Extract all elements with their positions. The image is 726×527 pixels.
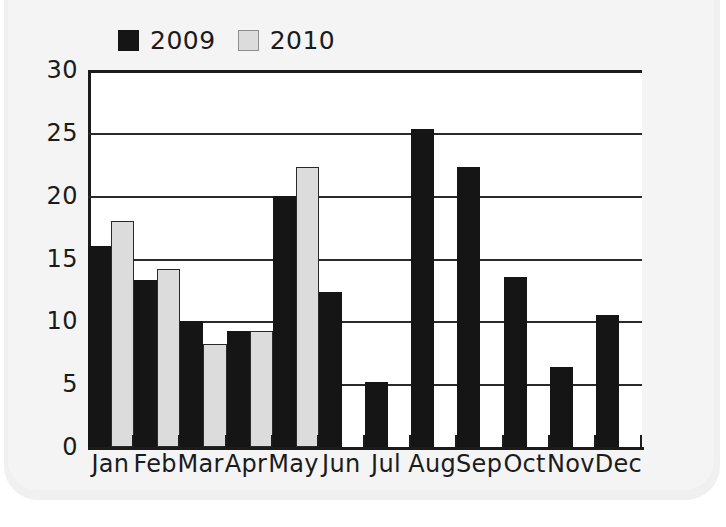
x-tick-label-dec: Dec (595, 452, 642, 476)
dark-square-swatch-icon (118, 30, 139, 51)
bar-group-jul (365, 70, 411, 447)
y-tick-label-0: 0 (26, 435, 78, 459)
bar-group-jun (319, 70, 365, 447)
bar-2009-jan (88, 246, 111, 447)
bar-2010-feb (157, 269, 180, 447)
legend-item-2010: 2010 (238, 28, 336, 53)
y-tick-label-15: 15 (26, 247, 78, 271)
bar-2009-jul (365, 382, 388, 447)
y-tick-label-20: 20 (26, 184, 78, 208)
legend-label-2009: 2009 (150, 28, 216, 53)
bar-group-feb (134, 70, 180, 447)
y-tick-label-10: 10 (26, 309, 78, 333)
y-tick-label-25: 25 (26, 121, 78, 145)
bar-2010-apr (250, 331, 273, 447)
x-axis-labels: JanFebMarAprMayJunJulAugSepOctNovDec (88, 452, 642, 476)
x-tick-label-jun: Jun (319, 452, 364, 476)
bar-2009-oct (504, 277, 527, 447)
bar-group-mar (180, 70, 226, 447)
x-tick-label-mar: Mar (177, 452, 223, 476)
bar-2010-mar (203, 344, 226, 447)
x-tick-label-aug: Aug (408, 452, 456, 476)
x-tick-label-feb: Feb (133, 452, 178, 476)
y-axis-labels: 30 25 20 15 10 5 0 (18, 70, 78, 447)
bar-group-aug (411, 70, 457, 447)
bar-chart: 2009 2010 30 25 20 15 10 5 0 (0, 0, 726, 527)
bar-group-sep (457, 70, 503, 447)
y-tick-label-30: 30 (26, 58, 78, 82)
legend-label-2010: 2010 (270, 28, 336, 53)
bar-2009-dec (596, 315, 619, 447)
bar-2010-may (296, 167, 319, 447)
x-tick-label-jul: Jul (364, 452, 409, 476)
x-tick-label-nov: Nov (547, 452, 595, 476)
bar-2009-aug (411, 129, 434, 447)
chart-legend: 2009 2010 (118, 28, 335, 53)
bar-group-dec (596, 70, 642, 447)
bar-2009-may (273, 196, 296, 447)
bar-group-jan (88, 70, 134, 447)
x-tick-label-apr: Apr (224, 452, 269, 476)
x-tick-label-jan: Jan (88, 452, 133, 476)
bar-group-oct (504, 70, 550, 447)
bar-group-apr (227, 70, 273, 447)
bar-groups (88, 70, 642, 447)
bar-2010-jan (111, 221, 134, 447)
bar-2009-sep (457, 167, 480, 447)
bar-2009-mar (180, 321, 203, 447)
bar-2009-feb (134, 280, 157, 447)
x-tick-label-may: May (268, 452, 319, 476)
bar-2009-jun (319, 292, 342, 447)
bar-group-nov (550, 70, 596, 447)
x-tick-label-sep: Sep (456, 452, 502, 476)
x-tick-label-oct: Oct (502, 452, 547, 476)
bar-group-may (273, 70, 319, 447)
plot-area-wrapper (88, 70, 642, 447)
light-square-swatch-icon (238, 30, 259, 51)
scanned-page: 2009 2010 30 25 20 15 10 5 0 (0, 0, 726, 527)
legend-item-2009: 2009 (118, 28, 216, 53)
bar-2009-apr (227, 331, 250, 447)
y-tick-label-5: 5 (26, 372, 78, 396)
bar-2009-nov (550, 367, 573, 447)
